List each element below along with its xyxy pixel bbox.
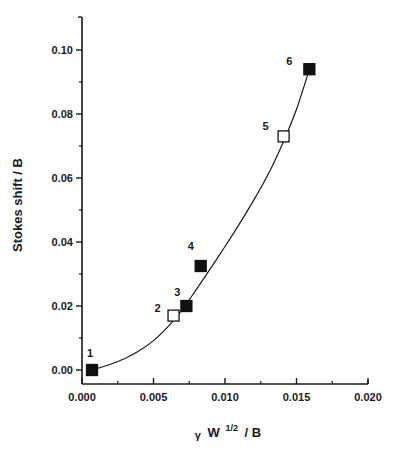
point-label: 6 [286, 55, 292, 67]
point-label: 4 [188, 240, 195, 252]
point-label: 2 [154, 302, 160, 314]
x-tick-label: 0.020 [354, 391, 382, 403]
filled-square-marker [195, 261, 206, 272]
scatter-chart: 0.000.020.040.060.080.10 0.0000.0050.010… [0, 0, 401, 456]
x-axis-title-w: W [208, 425, 221, 440]
x-axis-title-superscript: 1/2 [225, 423, 238, 433]
fit-curve [92, 69, 309, 370]
y-tick-label: 0.06 [52, 172, 73, 184]
filled-square-marker [87, 365, 98, 376]
x-tick-label: 0.005 [140, 391, 168, 403]
axes [78, 17, 368, 384]
open-square-marker [278, 131, 289, 142]
x-tick-label: 0.010 [211, 391, 239, 403]
open-square-marker [168, 310, 179, 321]
y-tick-label: 0.08 [52, 108, 73, 120]
x-tick-label: 0.015 [283, 391, 311, 403]
filled-square-marker [304, 64, 315, 75]
y-tick-label: 0.02 [52, 300, 73, 312]
y-tick-label: 0.04 [52, 236, 74, 248]
x-axis-title: γ W 1/2 / B [195, 419, 261, 442]
y-axis-title: Stokes shift / B [10, 158, 25, 252]
y-tick-label: 0.10 [52, 44, 73, 56]
point-label: 1 [87, 347, 93, 359]
x-ticks: 0.0000.0050.0100.0150.020 [68, 378, 382, 403]
point-label: 5 [263, 120, 269, 132]
x-axis-title-gamma: γ [195, 429, 202, 441]
point-label: 3 [174, 286, 180, 298]
x-axis-title-rest: / B [245, 425, 262, 440]
filled-square-marker [181, 301, 192, 312]
y-ticks: 0.000.020.040.060.080.10 [52, 44, 82, 376]
y-axis-title-text: Stokes shift / B [10, 158, 25, 252]
x-tick-label: 0.000 [68, 391, 96, 403]
data-points: 123456 [87, 55, 315, 375]
y-tick-label: 0.00 [52, 364, 73, 376]
